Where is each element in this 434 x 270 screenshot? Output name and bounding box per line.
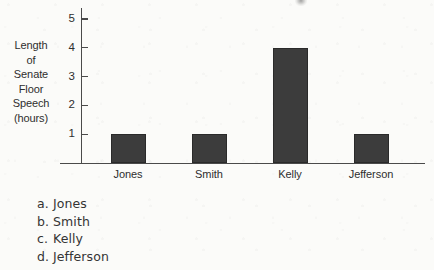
answer-letter-c: c. bbox=[37, 231, 53, 246]
worksheet-page: Length of Senate Floor Speech (hours) 12… bbox=[0, 0, 434, 270]
y-axis-tick-label-1: 1 bbox=[61, 128, 75, 140]
answer-choice-a[interactable]: a. Jones bbox=[37, 196, 237, 214]
y-axis-title-line-2: of bbox=[2, 53, 60, 68]
y-axis-tick-2 bbox=[81, 105, 88, 106]
x-axis-line bbox=[60, 163, 425, 164]
y-axis-title-line-6: (hours) bbox=[2, 111, 60, 126]
answer-choice-list: a. Jones b. Smith c. Kelly d. Jefferson bbox=[37, 196, 237, 266]
x-axis-label-jefferson: Jefferson bbox=[331, 168, 411, 181]
y-axis-line bbox=[81, 8, 82, 164]
bar-kelly bbox=[273, 48, 308, 163]
x-axis-label-kelly: Kelly bbox=[250, 168, 330, 181]
answer-letter-d: d. bbox=[37, 249, 53, 264]
bar-jefferson bbox=[354, 134, 389, 163]
y-axis-tick-label-2: 2 bbox=[61, 99, 75, 111]
y-axis-tick-5 bbox=[81, 18, 88, 19]
y-axis-tick-3 bbox=[81, 76, 88, 77]
answer-text-b: Smith bbox=[53, 214, 237, 229]
answer-text-a: Jones bbox=[53, 196, 237, 211]
y-axis-title-line-4: Floor bbox=[2, 82, 60, 97]
bar-smith bbox=[192, 134, 227, 163]
x-axis-label-smith: Smith bbox=[169, 168, 249, 181]
bar-jones bbox=[111, 134, 146, 163]
answer-choice-d[interactable]: d. Jefferson bbox=[37, 249, 237, 267]
answer-choice-b[interactable]: b. Smith bbox=[37, 214, 237, 232]
y-axis-tick-1 bbox=[81, 134, 88, 135]
answer-letter-a: a. bbox=[37, 196, 53, 211]
bar-chart: Length of Senate Floor Speech (hours) 12… bbox=[0, 0, 434, 190]
y-axis-tick-label-3: 3 bbox=[61, 71, 75, 83]
y-axis-title-line-3: Senate bbox=[2, 67, 60, 82]
y-axis-tick-label-4: 4 bbox=[61, 42, 75, 54]
y-axis-title-line-5: Speech bbox=[2, 96, 60, 111]
answer-text-d: Jefferson bbox=[53, 249, 237, 264]
y-axis-tick-4 bbox=[81, 47, 88, 48]
answer-text-c: Kelly bbox=[53, 231, 237, 246]
x-axis-label-jones: Jones bbox=[88, 168, 168, 181]
answer-choice-c[interactable]: c. Kelly bbox=[37, 231, 237, 249]
answer-letter-b: b. bbox=[37, 214, 53, 229]
y-axis-title-line-1: Length bbox=[2, 38, 60, 53]
y-axis-tick-label-5: 5 bbox=[61, 13, 75, 25]
y-axis-title: Length of Senate Floor Speech (hours) bbox=[2, 38, 60, 125]
